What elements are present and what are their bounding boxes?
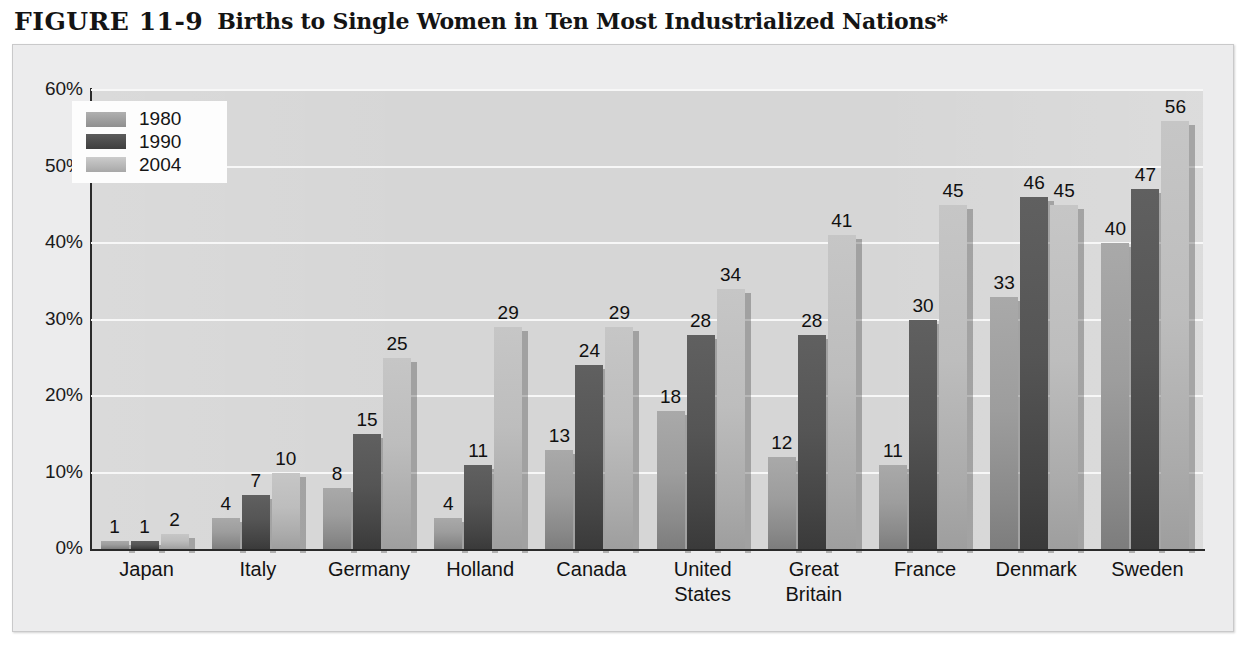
bar-value-label: 10: [264, 448, 308, 470]
bar[interactable]: 2: [161, 534, 189, 549]
y-axis-tick-label: 10%: [17, 461, 83, 483]
bar-shadow: [411, 362, 417, 553]
bar-body: [383, 358, 411, 549]
bar-body: [323, 488, 351, 549]
bar-body: [434, 518, 462, 549]
bar-group: 112: [91, 90, 202, 549]
bar-body: [605, 327, 633, 549]
bar-body: [1161, 121, 1189, 549]
bar-group: 182834: [647, 90, 758, 549]
bar[interactable]: 1: [131, 541, 159, 549]
bar[interactable]: 47: [1131, 189, 1159, 549]
bar-chart: 0%10%20%30%40%50%60% 198019902004 112471…: [13, 45, 1235, 633]
bar-body: [272, 473, 300, 550]
bar-body: [1131, 189, 1159, 549]
x-axis-line: [90, 549, 1205, 551]
bar-value-label: 2: [153, 509, 197, 531]
bar-body: [212, 518, 240, 549]
bars-layer: 1124710815254112913242918283412284111304…: [91, 90, 1203, 549]
bar[interactable]: 29: [494, 327, 522, 549]
bar-body: [131, 541, 159, 549]
bar-value-label: 29: [597, 302, 641, 324]
bar[interactable]: 8: [323, 488, 351, 549]
bar-shadow: [633, 331, 639, 553]
bar-shadow: [1189, 125, 1195, 553]
bar-body: [657, 411, 685, 549]
bar[interactable]: 7: [242, 495, 270, 549]
bar-body: [990, 297, 1018, 549]
bar[interactable]: 34: [717, 289, 745, 549]
figure-panel: 0%10%20%30%40%50%60% 198019902004 112471…: [12, 44, 1234, 632]
bar[interactable]: 46: [1020, 197, 1048, 549]
y-axis-tick-label: 30%: [17, 308, 83, 330]
bar-shadow: [856, 239, 862, 553]
x-axis-label-line: Sweden: [1072, 557, 1222, 582]
bar-body: [575, 365, 603, 549]
bar[interactable]: 13: [545, 450, 573, 549]
bar-value-label: 56: [1153, 96, 1197, 118]
bar-value-label: 29: [486, 302, 530, 324]
bar-body: [101, 541, 129, 549]
bar-shadow: [522, 331, 528, 553]
bar-body: [161, 534, 189, 549]
bar-body: [717, 289, 745, 549]
bar-shadow: [189, 538, 195, 553]
bar[interactable]: 4: [212, 518, 240, 549]
bar[interactable]: 25: [383, 358, 411, 549]
bar-body: [1050, 205, 1078, 549]
bar[interactable]: 11: [464, 465, 492, 549]
bar-body: [828, 235, 856, 549]
bar-body: [768, 457, 796, 549]
bar-body: [242, 495, 270, 549]
bar-value-label: 45: [931, 180, 975, 202]
figure-title: FIGURE 11-9 Births to Single Women in Te…: [14, 2, 948, 40]
bar[interactable]: 45: [1050, 205, 1078, 549]
figure-title-text: Births to Single Women in Ten Most Indus…: [217, 8, 948, 34]
bar-value-label: 45: [1042, 180, 1086, 202]
bar-group: 122841: [758, 90, 869, 549]
bar-body: [1101, 243, 1129, 549]
x-axis-label-line: Britain: [739, 582, 889, 607]
bar[interactable]: 41: [828, 235, 856, 549]
bar[interactable]: 11: [879, 465, 907, 549]
bar[interactable]: 18: [657, 411, 685, 549]
bar[interactable]: 4: [434, 518, 462, 549]
bar-group: 4710: [202, 90, 313, 549]
bar-group: 113045: [869, 90, 980, 549]
bar[interactable]: 30: [909, 320, 937, 550]
bar-value-label: 41: [820, 210, 864, 232]
bar[interactable]: 1: [101, 541, 129, 549]
bar-body: [909, 320, 937, 550]
bar[interactable]: 24: [575, 365, 603, 549]
bar-value-label: 34: [709, 264, 753, 286]
bar[interactable]: 10: [272, 473, 300, 550]
bar[interactable]: 28: [798, 335, 826, 549]
y-axis-tick-label: 40%: [17, 231, 83, 253]
bar-body: [798, 335, 826, 549]
bar[interactable]: 15: [353, 434, 381, 549]
bar[interactable]: 33: [990, 297, 1018, 549]
bar-shadow: [300, 477, 306, 554]
bar[interactable]: 56: [1161, 121, 1189, 549]
bar-body: [494, 327, 522, 549]
bar-value-label: 25: [375, 333, 419, 355]
bar-shadow: [967, 209, 973, 553]
bar[interactable]: 12: [768, 457, 796, 549]
bar-shadow: [745, 293, 751, 553]
y-axis-tick-label: 0%: [17, 537, 83, 559]
bar-group: 404756: [1092, 90, 1203, 549]
bar[interactable]: 29: [605, 327, 633, 549]
bar-group: 132429: [536, 90, 647, 549]
bar-group: 81525: [313, 90, 424, 549]
bar-shadow: [1078, 209, 1084, 553]
bar-body: [464, 465, 492, 549]
bar[interactable]: 28: [687, 335, 715, 549]
bar-body: [879, 465, 907, 549]
bar[interactable]: 45: [939, 205, 967, 549]
bar-group: 41129: [425, 90, 536, 549]
bar-body: [545, 450, 573, 549]
bar[interactable]: 40: [1101, 243, 1129, 549]
bar-group: 334645: [981, 90, 1092, 549]
x-axis-labels: JapanItalyGermanyHollandCanadaUnitedStat…: [91, 557, 1203, 619]
y-axis-tick-label: 60%: [17, 78, 83, 100]
